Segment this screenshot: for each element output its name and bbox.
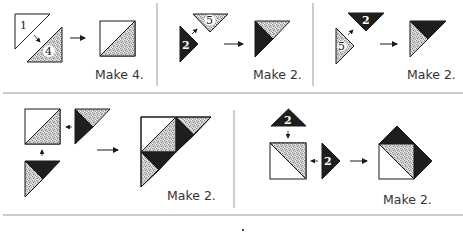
panel-5: 2 2 Make 2.: [270, 109, 432, 207]
quilt-assembly-diagram: 1 4 Make 4. 2 5 Make 2. 2 5 Make 2.: [0, 0, 463, 232]
join-arrow-icon: [348, 30, 353, 35]
join-arrow-icon: [192, 29, 197, 34]
caption-make-2: Make 2.: [407, 67, 456, 82]
piece-label-2: 2: [182, 39, 190, 52]
piece-label-1: 1: [20, 19, 27, 32]
caption-make-2: Make 2.: [253, 67, 302, 82]
piece-label-2: 2: [324, 155, 332, 168]
join-arrow-icon: [34, 35, 40, 42]
piece-label-2: 2: [284, 114, 292, 127]
piece-label-5: 5: [338, 40, 345, 53]
panel-3: 2 5 Make 2.: [336, 13, 456, 82]
panel-4: Make 2.: [25, 109, 216, 203]
piece-label-5: 5: [206, 14, 213, 27]
caption-make-2: Make 2.: [383, 192, 432, 207]
panel-2: 2 5 Make 2.: [180, 14, 302, 82]
caption-make-2: Make 2.: [167, 188, 216, 203]
result-pieced-triangle: [141, 117, 211, 187]
page-mark: [242, 229, 244, 231]
caption-make-4: Make 4.: [95, 67, 144, 82]
piece-label-2: 2: [362, 14, 370, 27]
piece-label-4: 4: [45, 45, 52, 58]
panel-1: 1 4 Make 4.: [15, 14, 144, 82]
result-square-with-corners: [379, 126, 432, 179]
